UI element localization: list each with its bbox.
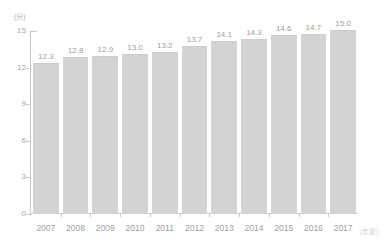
- bar[interactable]: [330, 30, 356, 214]
- y-axis-tick-mark: [26, 214, 31, 215]
- y-axis-tick-label: 6: [0, 137, 26, 145]
- x-axis-category-label: 2014: [239, 223, 269, 233]
- y-axis-tick-label: 15: [0, 27, 26, 35]
- x-axis-category-label: 2010: [120, 223, 150, 233]
- bar-value-label: 15.0: [328, 19, 358, 28]
- x-axis-category-label: 2008: [61, 223, 91, 233]
- bar-slot: 13.7: [180, 31, 210, 214]
- x-axis-category-label: 2009: [90, 223, 120, 233]
- bar-chart: (分) 03691215 12.312.812.913.013.213.714.…: [0, 0, 386, 249]
- y-axis-unit-label: (分): [14, 12, 26, 21]
- bar[interactable]: [33, 63, 59, 214]
- plot-area: 12.312.812.913.013.213.714.114.314.614.7…: [31, 31, 358, 214]
- bar-value-label: 13.7: [180, 35, 210, 44]
- y-axis-tick-label: 12: [0, 64, 26, 72]
- bar[interactable]: [182, 46, 208, 214]
- bar-value-label: 14.6: [269, 24, 299, 33]
- bar-slot: 15.0: [328, 31, 358, 214]
- bar[interactable]: [211, 41, 237, 214]
- bar[interactable]: [271, 35, 297, 214]
- bar[interactable]: [241, 39, 267, 214]
- bar[interactable]: [92, 56, 118, 214]
- bar-slot: 13.2: [150, 31, 180, 214]
- bar[interactable]: [63, 57, 89, 214]
- bar-value-label: 14.1: [209, 30, 239, 39]
- bar[interactable]: [152, 52, 178, 214]
- x-axis-category-label: 2011: [150, 223, 180, 233]
- x-axis-category-label: 2013: [209, 223, 239, 233]
- bar-value-label: 14.7: [299, 23, 329, 32]
- bar-slot: 14.1: [209, 31, 239, 214]
- bar-slot: 12.9: [90, 31, 120, 214]
- bar-value-label: 14.3: [239, 28, 269, 37]
- bar-value-label: 13.2: [150, 41, 180, 50]
- bar-slot: 13.0: [120, 31, 150, 214]
- x-axis-category-label: 2017: [328, 223, 358, 233]
- bar[interactable]: [122, 54, 148, 214]
- x-axis-category-label: 2007: [31, 223, 61, 233]
- bar-value-label: 12.8: [61, 46, 91, 55]
- bar-slot: 14.7: [299, 31, 329, 214]
- bar-value-label: 13.0: [120, 43, 150, 52]
- y-axis-tick-label: 9: [0, 100, 26, 108]
- bar-slot: 12.3: [31, 31, 61, 214]
- bar-slot: 14.3: [239, 31, 269, 214]
- x-axis-category-label: 2015: [269, 223, 299, 233]
- bar-slot: 12.8: [61, 31, 91, 214]
- x-axis-category-label: 2012: [180, 223, 210, 233]
- x-axis-category-label: 2016: [299, 223, 329, 233]
- bar-value-label: 12.3: [31, 52, 61, 61]
- bar[interactable]: [301, 34, 327, 214]
- bar-slot: 14.6: [269, 31, 299, 214]
- bar-value-label: 12.9: [90, 45, 120, 54]
- y-axis-tick-label: 0: [0, 210, 26, 218]
- y-axis-tick-label: 3: [0, 173, 26, 181]
- x-axis-unit-label: (年度): [360, 228, 378, 236]
